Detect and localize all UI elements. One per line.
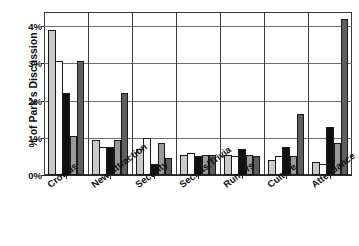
bar-group <box>180 13 216 175</box>
y-tick-label: 3% <box>0 58 42 69</box>
y-tick-label: 1% <box>0 132 42 143</box>
bar-group <box>312 13 348 175</box>
y-tick-label: 2% <box>0 95 42 106</box>
bar-group <box>268 13 304 175</box>
bars-layer <box>45 13 351 175</box>
bar <box>297 114 305 175</box>
y-tick-label: 4% <box>0 21 42 32</box>
y-axis-title: % of Park's Discussion <box>27 10 39 170</box>
bar <box>77 61 85 175</box>
y-tick-label: 0% <box>0 170 42 181</box>
bar-chart: % of Park's Discussion 0%1%2%3%4% Crowds… <box>0 0 359 246</box>
bar-group <box>48 13 84 175</box>
bar-group <box>92 13 128 175</box>
